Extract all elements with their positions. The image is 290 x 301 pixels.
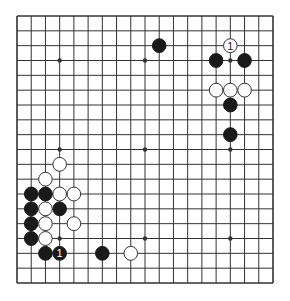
black-stone [24,217,38,231]
black-stone [96,246,110,260]
black-stone [53,202,67,216]
white-stone [53,157,67,171]
black-stone [39,246,53,260]
black-stone [224,128,238,142]
star-point [228,147,232,151]
white-stone: 1 [224,39,238,53]
white-stone [53,187,67,201]
star-point [143,236,147,240]
star-point [57,58,61,62]
white-stone [238,83,252,97]
black-stone [24,187,38,201]
white-stone [124,246,138,260]
white-stone [39,217,53,231]
white-stone [39,172,53,186]
black-stone [238,54,252,68]
black-stone [224,98,238,112]
white-stone [67,217,81,231]
black-stone [39,187,53,201]
black-stone: 1 [53,246,67,260]
move-number-label: 1 [57,247,63,259]
white-stone [209,83,223,97]
star-point [143,58,147,62]
black-stone [152,39,166,53]
black-stone [24,202,38,216]
star-point [228,236,232,240]
white-stone [39,202,53,216]
white-stone [67,187,81,201]
black-stone [24,232,38,246]
move-number-label: 1 [227,40,233,52]
star-point [57,147,61,151]
star-point [143,147,147,151]
star-point [57,236,61,240]
black-stone [209,54,223,68]
white-stone [224,83,238,97]
white-stone [39,232,53,246]
go-board[interactable]: 11 [0,0,290,301]
star-point [228,58,232,62]
